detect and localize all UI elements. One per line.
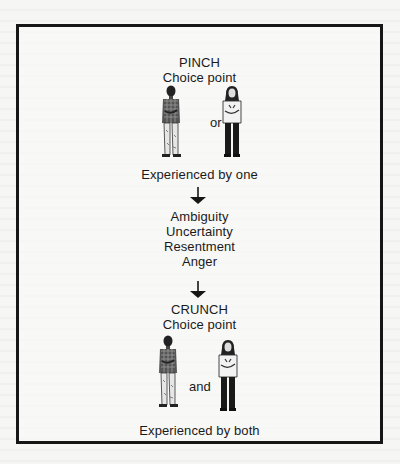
woman-figure-icon xyxy=(220,85,244,159)
man-figure-icon xyxy=(155,335,181,409)
crunch-title: CRUNCH xyxy=(19,302,380,317)
diagram-frame: PINCH Choice point or Experienced by one… xyxy=(16,24,383,444)
pinch-title: PINCH xyxy=(19,55,380,70)
pinch-caption: Experienced by one xyxy=(19,167,380,182)
down-arrow-icon xyxy=(188,186,208,206)
feeling-item: Resentment xyxy=(19,239,380,254)
feeling-item: Ambiguity xyxy=(19,209,380,224)
feeling-item: Anger xyxy=(19,254,380,269)
crunch-caption: Experienced by both xyxy=(19,423,380,438)
down-arrow-icon xyxy=(188,280,208,300)
feeling-item: Uncertainty xyxy=(19,224,380,239)
woman-figure-icon xyxy=(216,339,240,413)
man-figure-icon xyxy=(158,85,184,159)
crunch-connector: and xyxy=(189,379,211,394)
pinch-subtitle: Choice point xyxy=(19,70,380,85)
crunch-subtitle: Choice point xyxy=(19,317,380,332)
